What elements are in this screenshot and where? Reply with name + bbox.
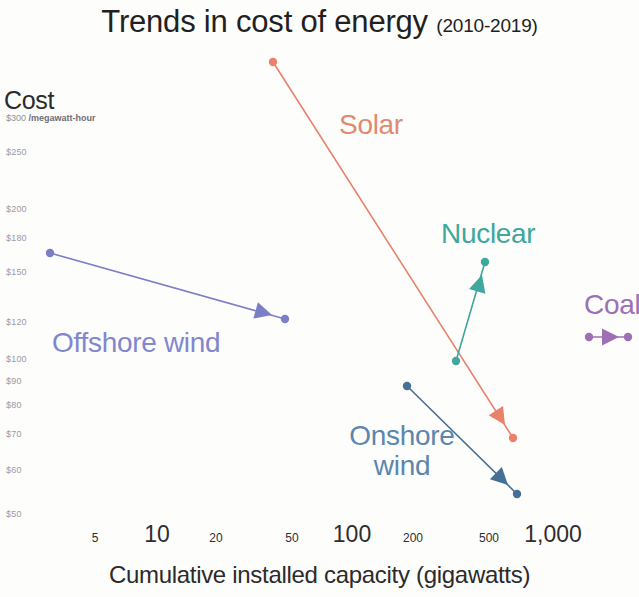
series-label-solar: Solar [339, 110, 403, 140]
series-arrowhead [602, 329, 619, 346]
plot-area [0, 0, 639, 597]
x-axis-tick-label: 10 [144, 521, 170, 548]
series-end-point [281, 315, 289, 323]
chart-canvas: Trends in cost of energy (2010-2019) Cos… [0, 0, 639, 597]
series-offshore-wind [46, 249, 289, 323]
series-label-onshore-line1: Onshore [349, 420, 454, 451]
series-start-point [452, 357, 460, 365]
x-axis-tick-label: 50 [285, 531, 298, 545]
series-line [50, 253, 285, 319]
series-end-point [513, 490, 521, 498]
series-label-offshore-wind: Offshore wind [52, 328, 220, 358]
series-arrowhead [489, 406, 512, 429]
series-arrowhead [253, 302, 274, 323]
x-axis-tick-label: 100 [333, 521, 371, 548]
series-end-point [624, 333, 632, 341]
x-axis-tick-label: 20 [209, 531, 222, 545]
series-start-point [403, 382, 411, 390]
series-start-point [46, 249, 54, 257]
series-label-nuclear: Nuclear [441, 219, 535, 249]
series-label-onshore-wind: Onshore wind [332, 421, 472, 481]
x-axis-tick-label: 1,000 [524, 521, 582, 548]
series-start-point [269, 58, 277, 66]
x-axis-tick-label: 5 [92, 531, 99, 545]
series-label-onshore-line2: wind [374, 450, 430, 481]
series-start-point [585, 333, 593, 341]
series-label-coal: Coal [584, 290, 639, 320]
x-axis-title: Cumulative installed capacity (gigawatts… [0, 561, 639, 589]
series-end-point [481, 258, 489, 266]
x-axis-tick-label: 500 [479, 531, 499, 545]
series-nuclear [452, 258, 490, 365]
series-arrowhead [469, 273, 490, 294]
x-axis-tick-label: 200 [403, 531, 423, 545]
series-coal [585, 329, 632, 346]
series-end-point [509, 434, 517, 442]
